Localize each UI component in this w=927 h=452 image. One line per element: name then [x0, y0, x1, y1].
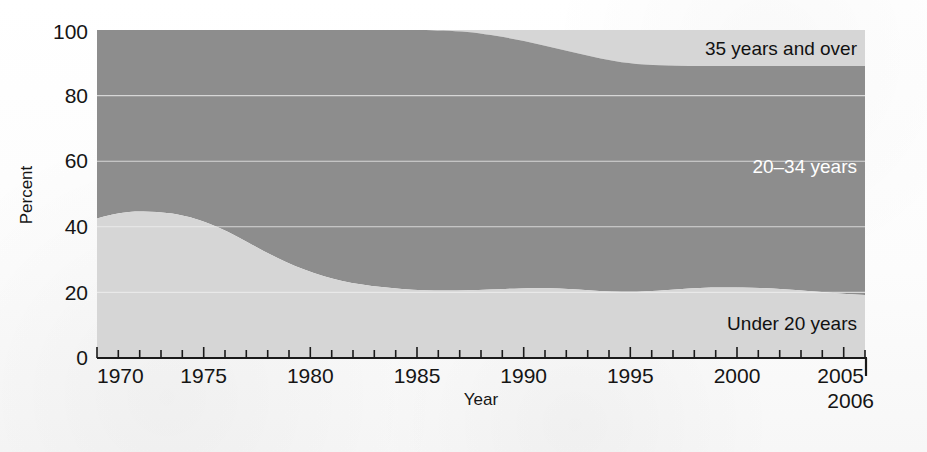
x-tick-2005: 2005 — [817, 364, 864, 387]
x-tick-1985: 1985 — [394, 364, 441, 387]
x-tick-1980: 1980 — [287, 364, 334, 387]
y-tick-60: 60 — [65, 149, 88, 172]
x-tick-1990: 1990 — [500, 364, 547, 387]
y-tick-20: 20 — [65, 281, 88, 304]
x-tick-1995: 1995 — [607, 364, 654, 387]
chart-figure: 0 20 40 60 80 100 Percent 1970 1975 1980… — [0, 0, 927, 452]
x-tick-2000: 2000 — [714, 364, 761, 387]
y-tick-80: 80 — [65, 84, 88, 107]
band-label-20-34: 20–34 years — [752, 156, 857, 177]
band-label-35-and-over: 35 years and over — [705, 38, 858, 59]
plot-bands — [97, 30, 865, 358]
y-tick-labels: 0 20 40 60 80 100 — [53, 20, 88, 369]
x-axis-title: Year — [464, 390, 499, 409]
y-axis-title: Percent — [17, 165, 36, 224]
x-end-year-label: 2006 — [827, 389, 874, 412]
x-tick-1975: 1975 — [180, 364, 227, 387]
stacked-area-chart: 0 20 40 60 80 100 Percent 1970 1975 1980… — [0, 0, 927, 452]
y-tick-0: 0 — [76, 346, 88, 369]
band-label-under-20: Under 20 years — [727, 313, 857, 334]
x-tick-labels: 1970 1975 1980 1985 1990 1995 2000 2005 — [97, 364, 864, 387]
y-tick-100: 100 — [53, 20, 88, 43]
y-tick-40: 40 — [65, 215, 88, 238]
x-tick-1970: 1970 — [97, 364, 144, 387]
